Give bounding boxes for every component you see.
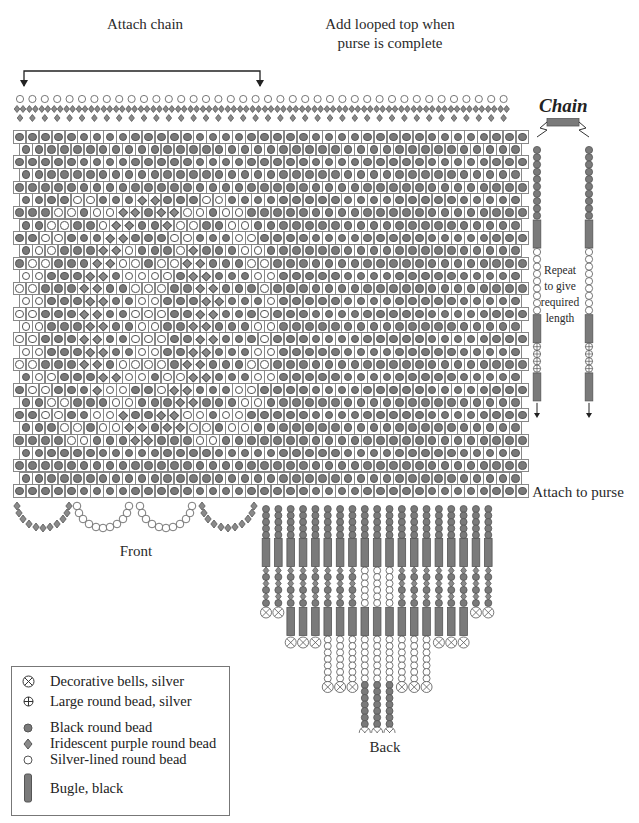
silver-lined-bead xyxy=(267,373,276,382)
black-bead xyxy=(35,221,44,230)
silver-lined-bead xyxy=(176,373,185,382)
black-bead xyxy=(125,297,134,306)
bead-cell xyxy=(464,282,477,296)
black-bead xyxy=(222,183,231,192)
bead-cell xyxy=(109,320,122,334)
bead-cell xyxy=(354,168,367,182)
bead-cell xyxy=(174,421,187,435)
bead-cell xyxy=(65,257,78,271)
bead-cell xyxy=(290,472,303,486)
bead-cell xyxy=(367,370,380,384)
black-bead xyxy=(67,133,76,142)
black-bead xyxy=(415,310,424,319)
black-bead xyxy=(473,297,482,306)
bead-cell xyxy=(71,446,84,460)
bead-cell xyxy=(406,193,419,207)
black-bead xyxy=(395,449,404,458)
silver-lined-bead xyxy=(35,246,44,255)
bead-cell xyxy=(193,408,206,422)
black-bead xyxy=(189,449,198,458)
black-bead xyxy=(370,474,379,483)
silver-lined-bead xyxy=(247,234,256,243)
black-bead xyxy=(389,208,398,217)
silver-lined-bead xyxy=(260,335,269,344)
black-bead xyxy=(196,234,205,243)
grid-row xyxy=(13,231,529,243)
bead-cell xyxy=(335,383,348,397)
black-bead xyxy=(170,183,179,192)
purple-bead xyxy=(202,322,211,331)
black-bead xyxy=(454,284,463,293)
bead-cell xyxy=(122,446,135,460)
bead-cell xyxy=(129,332,142,346)
black-bead xyxy=(80,208,89,217)
black-bead xyxy=(447,474,456,483)
black-bead xyxy=(505,158,514,167)
black-bead xyxy=(473,398,482,407)
black-bead xyxy=(228,322,237,331)
black-bead xyxy=(383,398,392,407)
bead-cell xyxy=(181,231,194,245)
black-bead xyxy=(395,196,404,205)
bead-cell xyxy=(155,307,168,321)
purple-bead xyxy=(157,410,166,419)
purple-bead xyxy=(99,271,108,280)
bead-cell xyxy=(322,459,335,473)
silver-lined-bead xyxy=(35,297,44,306)
bead-cell xyxy=(303,446,316,460)
bead-cell xyxy=(116,408,129,422)
silver-lined-bead xyxy=(144,310,153,319)
bead-cell xyxy=(213,421,226,435)
bead-cell xyxy=(219,358,232,372)
black-bead xyxy=(389,436,398,445)
purple-bead xyxy=(202,271,211,280)
bead-cell xyxy=(168,484,181,498)
silver-lined-bead xyxy=(35,373,44,382)
bead-cell xyxy=(245,459,258,473)
black-bead xyxy=(344,145,353,154)
black-bead xyxy=(338,208,347,217)
bead-cell xyxy=(245,181,258,195)
bead-cell xyxy=(26,484,39,498)
bead-cell xyxy=(45,345,58,359)
bead-cell xyxy=(400,206,413,220)
bead-cell xyxy=(303,370,316,384)
black-bead xyxy=(228,348,237,357)
bead-cell xyxy=(445,421,458,435)
bead-cell xyxy=(451,484,464,498)
bead-cell xyxy=(232,282,245,296)
black-bead xyxy=(247,310,256,319)
black-bead xyxy=(370,170,379,179)
black-bead xyxy=(344,297,353,306)
bead-cell xyxy=(129,206,142,220)
black-bead xyxy=(183,335,192,344)
bead-cell xyxy=(361,484,374,498)
bead-cell xyxy=(457,168,470,182)
bead-cell xyxy=(103,484,116,498)
bead-cell xyxy=(490,332,503,346)
bead-cell xyxy=(432,269,445,283)
black-bead xyxy=(235,158,244,167)
bead-cell xyxy=(341,446,354,460)
silver-lined-bead xyxy=(73,196,82,205)
bead-cell xyxy=(219,307,232,321)
grid-row xyxy=(19,370,522,382)
purple-bead xyxy=(196,284,205,293)
bead-cell xyxy=(116,332,129,346)
silver-lined-bead xyxy=(260,284,269,293)
bead-cell xyxy=(193,383,206,397)
black-bead xyxy=(35,145,44,154)
black-bead xyxy=(480,335,489,344)
black-bead xyxy=(338,310,347,319)
bead-cell xyxy=(419,193,432,207)
bead-cell xyxy=(477,383,490,397)
black-bead xyxy=(131,158,140,167)
black-bead xyxy=(35,449,44,458)
silver-lined-bead xyxy=(28,310,37,319)
black-bead xyxy=(202,449,211,458)
bead-cell xyxy=(90,358,103,372)
purple-bead xyxy=(189,398,198,407)
bead-cell xyxy=(245,434,258,448)
bead-cell xyxy=(426,383,439,397)
bead-cell xyxy=(309,358,322,372)
